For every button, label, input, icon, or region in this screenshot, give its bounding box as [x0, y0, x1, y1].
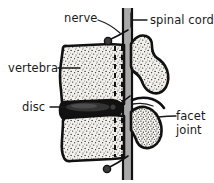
- leader-nerve: [98, 20, 120, 33]
- label-joint: joint: [175, 123, 202, 137]
- spine-diagram-svg: nerve spinal cord vertebra disc facet jo…: [0, 0, 214, 183]
- label-nerve: nerve: [64, 11, 97, 25]
- leader-facet-joint: [158, 116, 176, 117]
- label-facet: facet: [176, 109, 206, 123]
- label-disc: disc: [22, 100, 45, 114]
- label-spinal-cord: spinal cord: [150, 13, 214, 27]
- anatomy-figure: nerve spinal cord vertebra disc facet jo…: [0, 0, 214, 183]
- facet-joint: [132, 98, 164, 108]
- label-vertebra: vertebra: [8, 61, 58, 75]
